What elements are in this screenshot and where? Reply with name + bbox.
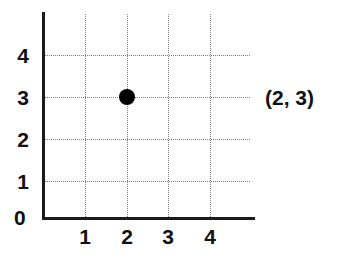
x-tick-label-3: 3 (155, 226, 181, 247)
y-tick-label-1-wrap: 1 (8, 171, 36, 193)
origin-label: 0 (14, 207, 26, 228)
point-coordinate-annotation: (2, 3) (265, 87, 314, 108)
gridline-horizontal-y1 (44, 181, 250, 182)
gridline-horizontal-y2 (44, 139, 250, 140)
y-tick-label-2: 2 (10, 129, 36, 150)
gridline-horizontal-y3 (44, 97, 250, 98)
y-tick-label-4-wrap: 4 (8, 45, 36, 67)
x-tick-label-1: 1 (72, 226, 98, 247)
gridline-vertical-x3 (168, 14, 169, 219)
x-tick-label-2: 2 (114, 226, 140, 247)
y-tick-label-2-wrap: 2 (8, 129, 36, 151)
gridline-horizontal-y4 (44, 55, 250, 56)
x-tick-label-4: 4 (197, 226, 223, 247)
y-tick-label-1: 1 (10, 171, 36, 192)
y-tick-label-3: 3 (10, 87, 36, 108)
scatter-plot-figure: 4 3 2 1 0 1 2 3 4 (2, 3) (0, 0, 339, 269)
gridline-vertical-x2 (127, 14, 128, 219)
gridline-vertical-x1 (85, 14, 86, 219)
y-tick-label-3-wrap: 3 (8, 87, 36, 109)
x-axis-line (42, 217, 255, 220)
data-point-marker (119, 89, 135, 105)
y-tick-label-4: 4 (10, 45, 36, 66)
y-axis-line (42, 12, 45, 220)
gridline-vertical-x4 (210, 14, 211, 219)
